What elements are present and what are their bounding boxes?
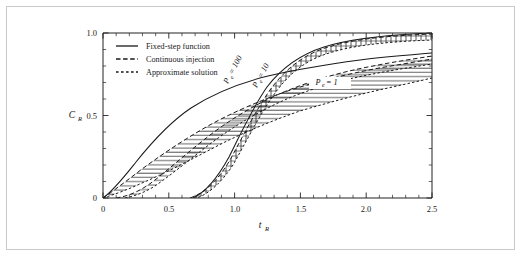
x-axis-title-main: t [259, 220, 262, 230]
annotation-pe-1-value: = 1 [326, 78, 338, 87]
x-ticklabel-3: 1.5 [296, 204, 307, 214]
annotation-pe-1: P e = 1 [309, 77, 351, 89]
legend-label-continuous-injection: Continuous injection [146, 55, 214, 64]
annotation-pe-10-value: = 10 [256, 62, 271, 80]
y-axis-title-main: C [69, 110, 76, 120]
chart-legend: Fixed-step function Continuous injection… [116, 42, 218, 77]
y-axis-title-sub: R [77, 115, 82, 122]
y-ticklabel-2: 1.0 [86, 28, 97, 38]
y-axis-title: C R [69, 110, 82, 122]
annotation-pe-100-value: = 100 [227, 54, 244, 76]
x-ticklabel-0: 0 [101, 204, 105, 214]
x-axis-title-sub: R [264, 225, 269, 232]
legend-label-fixed-step: Fixed-step function [146, 42, 210, 51]
annotation-pe-100: P e = 100 [221, 54, 245, 86]
x-ticklabel-1: 0.5 [164, 204, 175, 214]
chart-plot-area: 0 0.5 1.0 1.5 2.0 2.5 0 0.5 1.0 t R C R … [0, 0, 523, 258]
x-ticklabel-2: 1.0 [230, 204, 241, 214]
y-ticklabel-1: 0.5 [86, 111, 97, 121]
band-pe-1 [103, 59, 432, 198]
y-axis-ticklabels: 0 0.5 1.0 [86, 28, 97, 203]
annotation-pe-1-symbol: P [314, 78, 320, 87]
x-ticklabel-4: 2.0 [361, 204, 372, 214]
y-ticklabel-0: 0 [93, 193, 97, 203]
annotation-pe-1-subscript: e [322, 82, 325, 88]
x-ticklabel-5: 2.5 [427, 204, 438, 214]
legend-label-approximate-solution: Approximate solution [146, 68, 218, 77]
x-axis-ticklabels: 0 0.5 1.0 1.5 2.0 2.5 [101, 204, 437, 214]
x-axis-title: t R [259, 220, 269, 232]
